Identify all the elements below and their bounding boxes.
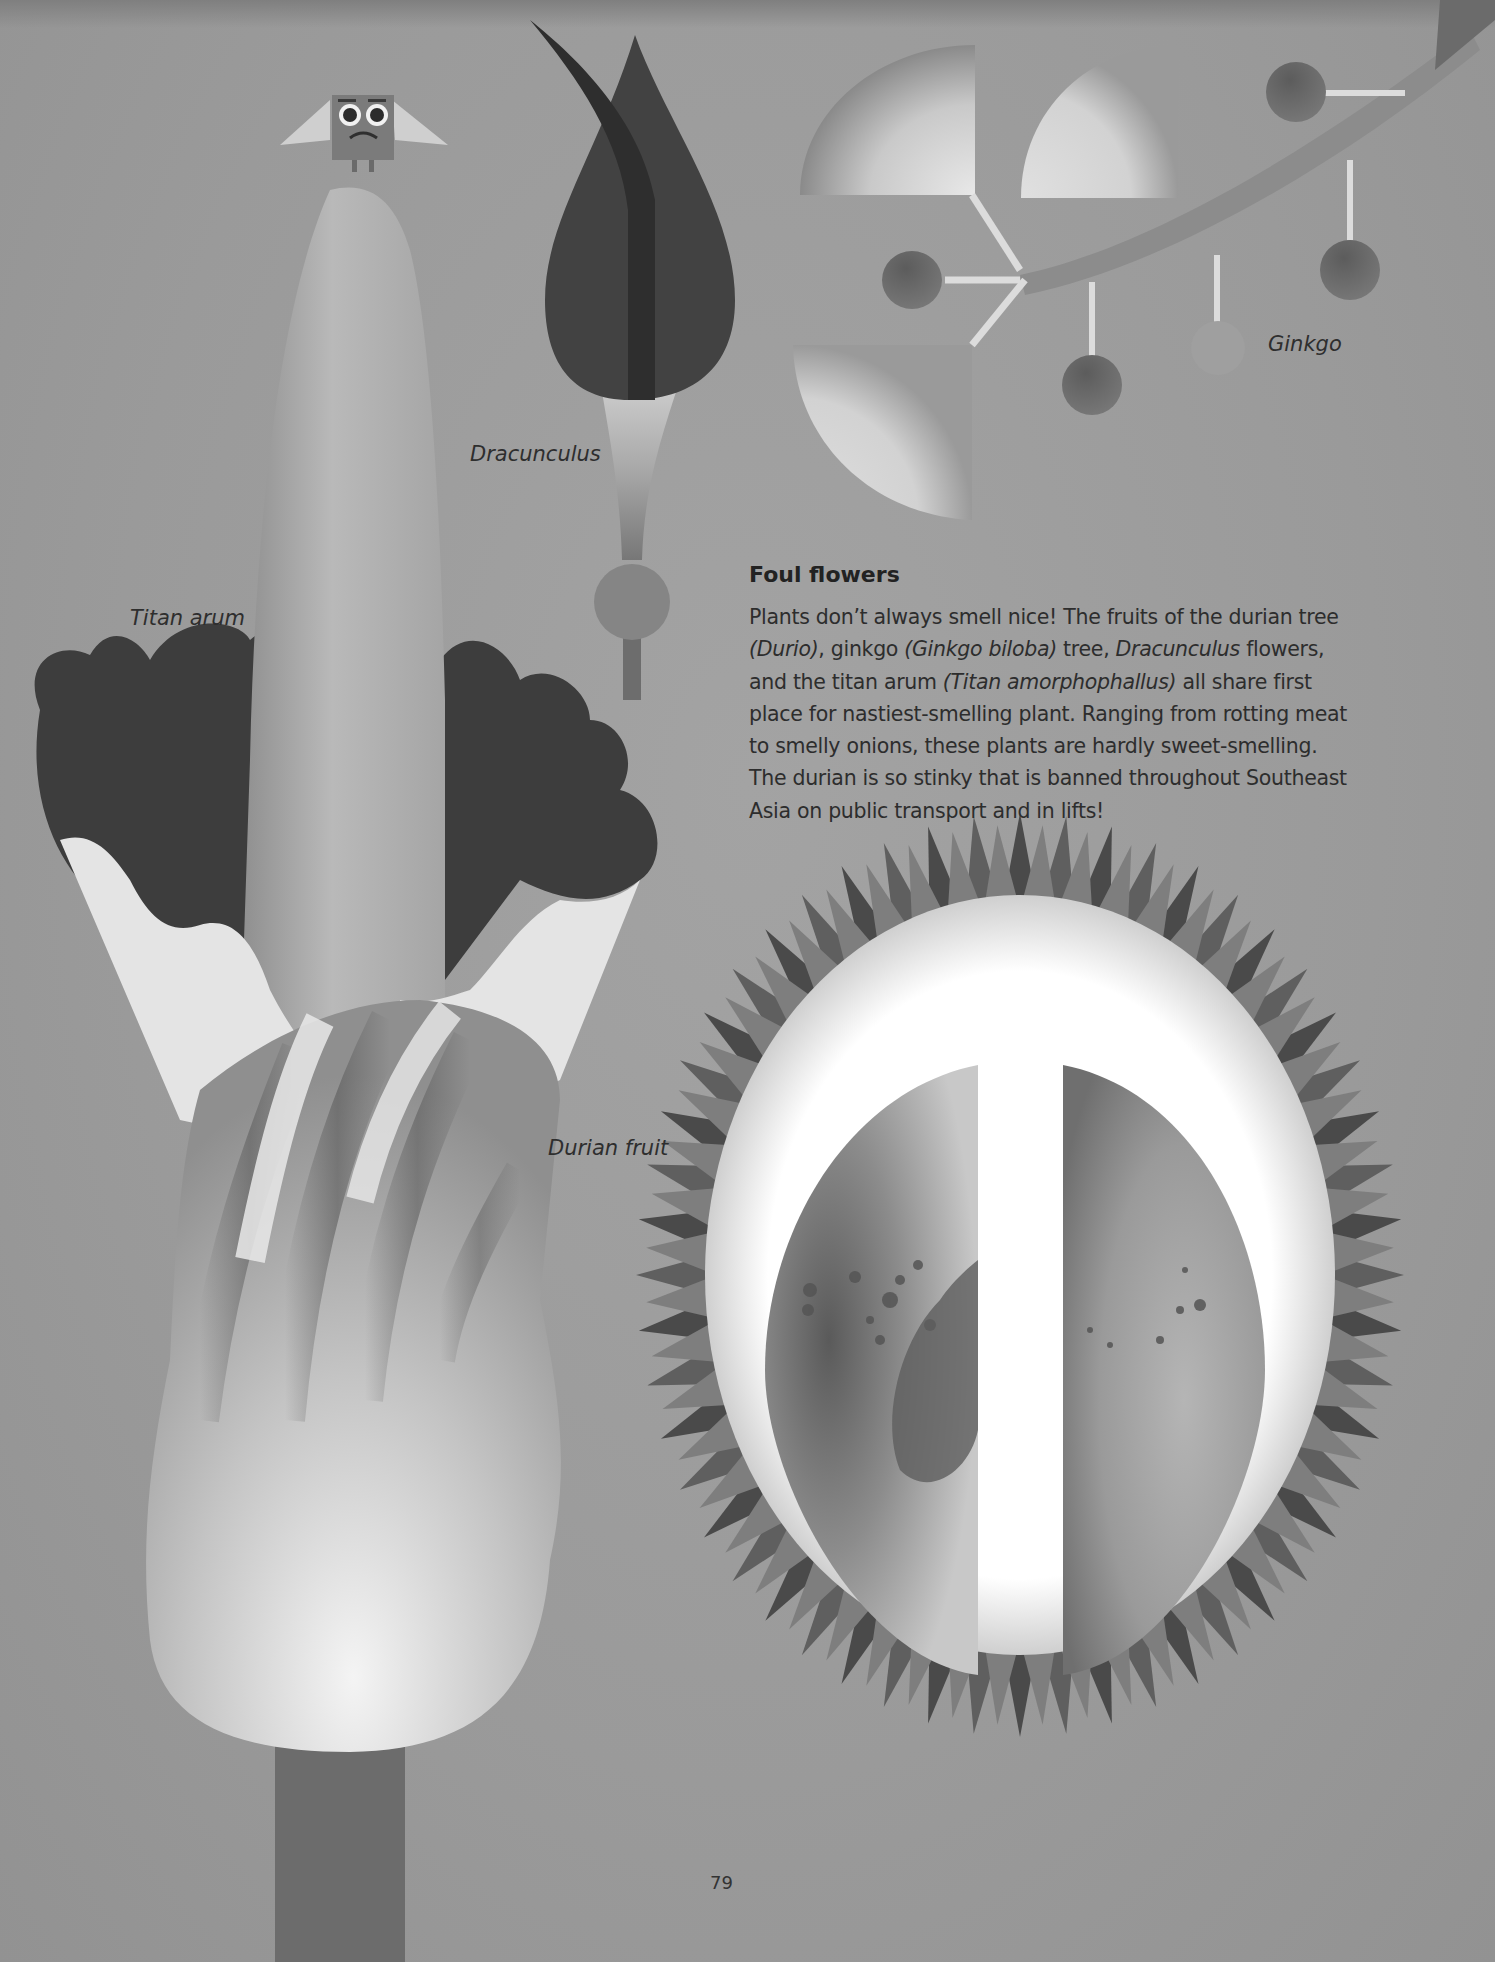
body-text-italic: Dracunculus (1116, 637, 1240, 661)
article-title: Foul flowers (749, 562, 1349, 587)
label-titan-arum: Titan arum (130, 606, 245, 630)
ginkgo-berry (1191, 321, 1245, 375)
page-number: 79 (710, 1872, 733, 1893)
durian-illustration (636, 813, 1404, 1737)
body-text: , ginkgo (818, 637, 904, 661)
ginkgo-berry (882, 251, 942, 309)
ginkgo-berry (1266, 62, 1326, 122)
body-text: tree, (1057, 637, 1116, 661)
body-text-italic: (Titan amorphophallus) (943, 670, 1176, 694)
body-text: Plants don’t always smell nice! The frui… (749, 605, 1339, 629)
article-text-block: Foul flowers Plants don’t always smell n… (749, 562, 1349, 827)
ginkgo-berry (1062, 355, 1122, 415)
label-durian-fruit: Durian fruit (548, 1136, 668, 1160)
titan-arum-stem (275, 1745, 405, 1962)
spadix (240, 188, 445, 1061)
ginkgo-illustration (793, 0, 1495, 520)
article-body: Plants don’t always smell nice! The frui… (749, 601, 1349, 827)
ginkgo-leaf-3 (793, 345, 972, 520)
dracunculus-illustration (530, 20, 735, 700)
ginkgo-berry (1320, 240, 1380, 300)
mascot-character (280, 95, 448, 172)
label-dracunculus: Dracunculus (470, 442, 601, 466)
dracunculus-neck (600, 380, 680, 560)
body-text-italic: (Ginkgo biloba) (904, 637, 1057, 661)
mascot-left-ear (280, 100, 330, 145)
label-ginkgo: Ginkgo (1268, 332, 1342, 356)
ginkgo-leaf-1 (800, 45, 975, 195)
mascot-right-ear (392, 100, 448, 145)
ginkgo-leaf-2 (1021, 45, 1178, 198)
illustration-canvas (0, 0, 1495, 1962)
dracunculus-bulb (594, 564, 670, 640)
mascot-head (332, 95, 394, 160)
body-text-italic: (Durio) (749, 637, 818, 661)
